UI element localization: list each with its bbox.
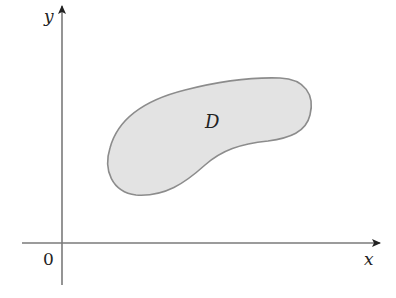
origin-label: 0 [43, 249, 54, 269]
y-axis-label: y [43, 6, 54, 26]
x-axis-label: x [364, 249, 374, 269]
region-label: D [204, 111, 220, 132]
diagram-canvas: y x 0 D [0, 0, 396, 298]
region-d [108, 78, 312, 195]
